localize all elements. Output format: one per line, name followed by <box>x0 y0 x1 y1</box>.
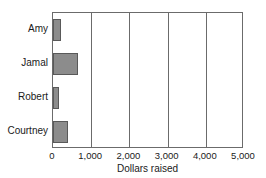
bar-amy <box>53 19 61 41</box>
bar-series <box>53 13 242 147</box>
x-axis-tick-labels: 01,0002,0003,0004,0005,000 <box>52 150 243 162</box>
x-axis-title: Dollars raised <box>52 163 243 174</box>
y-axis-label-courtney: Courtney <box>7 114 48 148</box>
y-axis-category-labels: AmyJamalRobertCourtney <box>0 12 48 148</box>
bar-courtney <box>53 121 68 143</box>
bar-jamal <box>53 53 78 75</box>
bar-row <box>53 47 78 81</box>
x-axis-tick-label: 4,000 <box>193 150 217 161</box>
plot-area <box>52 12 243 148</box>
x-axis-tick-label: 5,000 <box>231 150 255 161</box>
x-axis-tick-label: 2,000 <box>117 150 141 161</box>
bar-robert <box>53 87 59 109</box>
x-axis-tick-label: 3,000 <box>155 150 179 161</box>
bar-row <box>53 81 59 115</box>
y-axis-label-jamal: Jamal <box>21 46 48 80</box>
bar-chart: AmyJamalRobertCourtney 01,0002,0003,0004… <box>0 0 266 178</box>
bar-row <box>53 115 68 149</box>
y-axis-label-robert: Robert <box>18 80 48 114</box>
bar-row <box>53 13 61 47</box>
x-axis-tick-label: 0 <box>49 150 54 161</box>
y-axis-label-amy: Amy <box>28 12 48 46</box>
x-axis-tick-label: 1,000 <box>78 150 102 161</box>
